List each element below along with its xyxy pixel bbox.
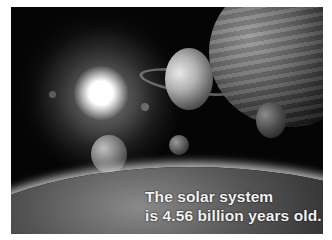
caption-line-2: is 4.56 billion years old. xyxy=(145,206,322,225)
caption-line-1: The solar system xyxy=(145,187,322,206)
rocky-planet xyxy=(91,135,127,173)
solar-system-photo: The solar system is 4.56 billion years o… xyxy=(11,7,323,234)
caption: The solar system is 4.56 billion years o… xyxy=(145,187,322,225)
moon xyxy=(256,102,286,138)
sun xyxy=(73,65,129,121)
saturn-planet xyxy=(165,48,213,110)
small-moon xyxy=(169,135,189,155)
distant-planet xyxy=(49,91,56,98)
small-planet xyxy=(141,103,149,111)
